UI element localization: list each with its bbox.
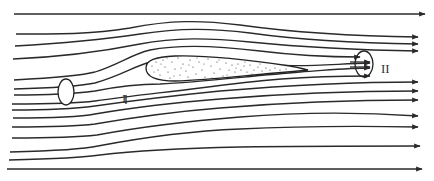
- airfoil-outline: [146, 56, 308, 81]
- streamline-3: [15, 29, 418, 46]
- streamline-diagram: [0, 0, 434, 181]
- section-1-label: I: [122, 92, 126, 105]
- streamline-14: [9, 146, 420, 160]
- airfoil: [146, 56, 308, 81]
- control-ellipse-upstream: [58, 79, 74, 105]
- section-2-label: II: [381, 62, 390, 75]
- streamline-2: [16, 22, 418, 37]
